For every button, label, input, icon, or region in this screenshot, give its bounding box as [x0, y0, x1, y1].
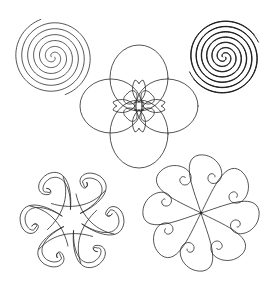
knot-hook-band — [73, 231, 101, 263]
knot-hook-band — [42, 227, 64, 262]
four-petal-flower-motif — [80, 45, 198, 168]
knot-crossing-arc — [51, 191, 105, 207]
knot-crossing-arc — [30, 206, 68, 246]
knot-hook-band — [80, 178, 102, 213]
swirl-petal — [154, 213, 201, 258]
knot-crossing-arc — [76, 194, 114, 234]
motif-canvas — [0, 0, 271, 292]
six-lobe-knot-motif — [20, 172, 124, 267]
flower-outer-lobe — [110, 45, 168, 111]
spiral-single-motif — [16, 19, 90, 94]
spiral-arm — [16, 19, 84, 91]
knot-hook-band — [43, 177, 71, 209]
spiral-arm — [22, 23, 90, 95]
spiral-double-motif — [190, 21, 259, 93]
eight-lobe-swirl-motif — [143, 155, 259, 271]
swirl-petal — [156, 166, 201, 213]
swirl-petal — [201, 213, 246, 260]
swirl-center-dot — [200, 212, 202, 214]
swirl-petal — [201, 168, 248, 213]
knot-crossing-arc — [39, 234, 93, 250]
